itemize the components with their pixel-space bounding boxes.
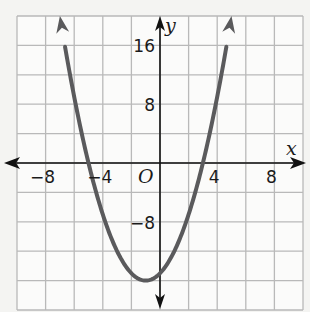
x-tick-label: 4 (209, 167, 220, 187)
y-tick-label: 16 (133, 36, 155, 56)
y-axis-label: y (164, 14, 176, 36)
origin-label: O (138, 165, 154, 187)
y-tick-label: −8 (130, 213, 155, 233)
y-tick-label: 8 (144, 95, 155, 115)
x-tick-label: 8 (266, 167, 277, 187)
x-tick-label: −8 (30, 167, 55, 187)
x-tick-label: −4 (87, 167, 112, 187)
parabola-chart: x y O −8−448168−8 (0, 0, 310, 312)
x-axis-label: x (286, 137, 297, 159)
